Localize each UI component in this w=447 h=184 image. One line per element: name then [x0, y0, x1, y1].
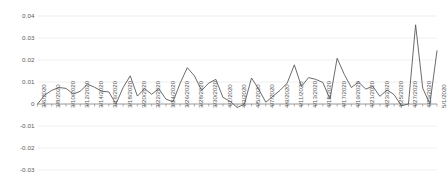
- x-axis-tick-label: 3/24/2020: [169, 81, 176, 108]
- x-axis-tick-label: 3/10/2020: [69, 81, 76, 108]
- y-axis-tick-label: 0: [31, 100, 35, 107]
- x-axis-tick-label: 4/11/2020: [297, 81, 304, 108]
- x-axis-tick-label: 4/21/2020: [368, 81, 375, 108]
- x-axis-tick-label: 4/3/2020: [240, 84, 247, 108]
- y-axis-tick-label: 0.01: [22, 78, 34, 85]
- x-axis-tick-label: 4/7/2020: [268, 84, 275, 108]
- x-axis-tick-label: 3/20/2020: [140, 81, 147, 108]
- y-axis-tick-label: 0.02: [22, 56, 34, 63]
- y-axis-tick-label: -0.01: [20, 122, 35, 129]
- x-axis-tick-label: 3/14/2020: [97, 81, 104, 108]
- x-axis-tick-label: 4/5/2020: [254, 84, 261, 108]
- y-axis-tick-label: -0.03: [20, 166, 35, 173]
- x-axis-tick-label: 5/1/2020: [440, 84, 447, 108]
- x-axis-tick-label: 3/12/2020: [83, 81, 90, 108]
- x-axis-tick-label: 3/18/2020: [126, 81, 133, 108]
- x-axis-tick-label: 3/28/2020: [197, 81, 204, 108]
- x-axis-tick-label: 3/6/2020: [40, 84, 47, 108]
- y-axis-tick-label: 0.03: [22, 34, 34, 41]
- x-axis-tick-label: 3/22/2020: [154, 81, 161, 108]
- x-axis-tick-label: 3/16/2020: [111, 81, 118, 108]
- x-axis-tick-label: 4/25/2020: [397, 81, 404, 108]
- x-axis-tick-label: 4/17/2020: [340, 81, 347, 108]
- x-axis-tick-label: 4/19/2020: [354, 81, 361, 108]
- x-axis-tick-label: 4/15/2020: [325, 81, 332, 108]
- x-axis-tick-label: 3/26/2020: [183, 81, 190, 108]
- x-axis-tick-label: 4/9/2020: [283, 84, 290, 108]
- x-axis-tick-label: 4/13/2020: [311, 81, 318, 108]
- x-axis-tick-label: 3/8/2020: [54, 84, 61, 108]
- y-axis-tick-label: -0.02: [20, 144, 35, 151]
- x-axis-tick-label: 4/27/2020: [411, 81, 418, 108]
- x-axis-tick-label: 4/23/2020: [383, 81, 390, 108]
- x-axis-tick-label: 3/30/2020: [211, 81, 218, 108]
- y-axis-tick-label: 0.04: [22, 12, 34, 19]
- x-axis-tick-label: 4/1/2020: [226, 84, 233, 108]
- x-axis-tick-label: 4/29/2020: [425, 81, 432, 108]
